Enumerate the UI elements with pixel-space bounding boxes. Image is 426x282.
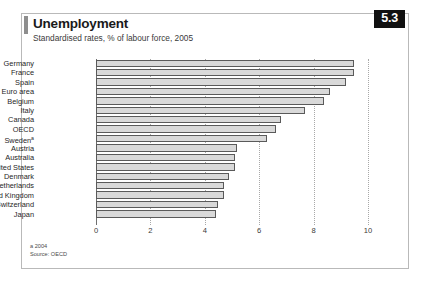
category-label-spain: Spain [0, 78, 34, 87]
category-label-oecd: OECD [0, 125, 34, 134]
bar-row: United Kingdom [96, 191, 368, 200]
category-label-japan: Japan [0, 210, 34, 219]
bar-row: Switzerland [96, 200, 368, 209]
bar-row: Euro area [96, 87, 368, 96]
bar-row: Japan [96, 210, 368, 219]
bar-united-kingdom [96, 191, 224, 198]
bar-sweden [96, 135, 267, 142]
bar-australia [96, 154, 235, 161]
bar-chart: GermanyFranceSpainEuro areaBelgiumItalyC… [0, 0, 426, 282]
bar-row: Austria [96, 144, 368, 153]
category-label-netherlands: Netherlands [0, 181, 34, 190]
category-label-belgium: Belgium [0, 97, 34, 106]
bar-germany [96, 60, 354, 67]
x-tick-label-10: 10 [364, 226, 372, 235]
category-label-united-states: United States [0, 163, 34, 172]
bar-row: Belgium [96, 97, 368, 106]
category-label-united-kingdom: United Kingdom [0, 191, 34, 200]
category-label-canada: Canada [0, 115, 34, 124]
bar-row: Netherlands [96, 181, 368, 190]
bar-oecd [96, 125, 276, 132]
bar-france [96, 69, 354, 76]
bar-row: Denmark [96, 172, 368, 181]
x-tick-label-8: 8 [311, 226, 315, 235]
bar-row: Spain [96, 78, 368, 87]
footnote-source: Source: OECD [30, 251, 67, 257]
bar-row: United States [96, 163, 368, 172]
x-tick-label-6: 6 [257, 226, 261, 235]
category-label-italy: Italy [0, 106, 34, 115]
bar-spain [96, 78, 346, 85]
bar-italy [96, 107, 305, 114]
plot-area: GermanyFranceSpainEuro areaBelgiumItalyC… [96, 59, 368, 219]
category-label-denmark: Denmark [0, 172, 34, 181]
x-tick-label-2: 2 [148, 226, 152, 235]
bar-row: Swedena [96, 134, 368, 143]
footnote-marker: a [31, 135, 34, 141]
bar-euro-area [96, 88, 330, 95]
category-label-france: France [0, 68, 34, 77]
bar-row: Germany [96, 59, 368, 68]
bar-switzerland [96, 201, 218, 208]
category-label-australia: Australia [0, 153, 34, 162]
chart-page: Unemployment Standardised rates, % of la… [0, 0, 426, 282]
bar-denmark [96, 173, 229, 180]
bar-austria [96, 144, 237, 151]
x-tick-label-4: 4 [203, 226, 207, 235]
gridline-10 [368, 59, 369, 225]
category-label-switzerland: Switzerland [0, 200, 34, 209]
bar-japan [96, 210, 216, 217]
bar-belgium [96, 97, 324, 104]
bar-row: Australia [96, 153, 368, 162]
x-tick-label-0: 0 [94, 226, 98, 235]
bar-row: OECD [96, 125, 368, 134]
bar-netherlands [96, 182, 224, 189]
bar-canada [96, 116, 281, 123]
bar-united-states [96, 163, 235, 170]
category-label-austria: Austria [0, 144, 34, 153]
category-label-euro-area: Euro area [0, 87, 34, 96]
bar-row: Italy [96, 106, 368, 115]
footnote-a: a 2004 [30, 243, 47, 249]
bar-row: Canada [96, 115, 368, 124]
category-label-germany: Germany [0, 59, 34, 68]
bar-row: France [96, 68, 368, 77]
